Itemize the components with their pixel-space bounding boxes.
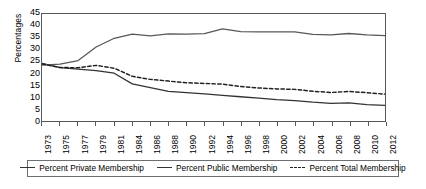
x-tick-mark — [386, 122, 387, 126]
x-tick-mark — [277, 122, 278, 126]
x-tick-label: 1979 — [99, 135, 108, 154]
x-tick-label: 1994 — [226, 135, 235, 154]
x-tick-label: 1986 — [153, 135, 162, 154]
x-tick-mark — [204, 122, 205, 126]
y-tick-label: 30 — [30, 44, 40, 53]
x-tick-label: 1977 — [81, 135, 90, 154]
chart-figure: Percentages 454035302520151050 197319751… — [0, 0, 426, 189]
y-tick-label: 40 — [30, 20, 40, 29]
x-tick-label: 1981 — [117, 135, 126, 154]
legend-item[interactable]: Percent Public Membership — [157, 164, 277, 173]
x-tick-label: 1975 — [62, 135, 71, 154]
x-tick-label: 1992 — [208, 135, 217, 154]
series-line — [42, 63, 385, 93]
x-tick-label: 2000 — [280, 135, 289, 154]
legend-label: Percent Public Membership — [176, 164, 277, 173]
x-tick-label: 1984 — [135, 135, 144, 154]
chart-legend: Percent Private MembershipPercent Public… — [27, 160, 399, 177]
x-tick-mark — [223, 122, 224, 126]
legend-line-icon — [290, 166, 305, 170]
x-tick-mark — [150, 122, 151, 126]
x-axis-tick-labels: 1973197519771979198119841986198819901992… — [41, 126, 386, 156]
x-tick-mark — [95, 122, 96, 126]
x-tick-mark — [241, 122, 242, 126]
x-tick-label: 1996 — [244, 135, 253, 154]
x-tick-label: 2002 — [298, 135, 307, 154]
x-tick-label: 2012 — [389, 135, 398, 154]
x-tick-label: 1990 — [189, 135, 198, 154]
x-tick-label: 2006 — [335, 135, 344, 154]
y-tick-label: 35 — [30, 32, 40, 41]
legend-label: Percent Private Membership — [39, 164, 144, 173]
x-tick-mark — [313, 122, 314, 126]
y-tick-label: 15 — [30, 81, 40, 90]
series-line — [42, 28, 385, 64]
x-tick-mark — [368, 122, 369, 126]
plot-area — [41, 13, 386, 122]
y-tick-label: 45 — [30, 8, 40, 17]
x-tick-label: 2008 — [353, 135, 362, 154]
x-tick-label: 2010 — [371, 135, 380, 154]
x-tick-mark — [114, 122, 115, 126]
y-tick-label: 0 — [35, 117, 40, 126]
x-tick-mark — [59, 122, 60, 126]
legend-item[interactable]: Percent Total Membership — [290, 164, 405, 173]
x-tick-label: 1973 — [44, 135, 53, 154]
x-tick-mark — [132, 122, 133, 126]
legend-label: Percent Total Membership — [309, 164, 405, 173]
x-tick-mark — [332, 122, 333, 126]
x-tick-mark — [41, 122, 42, 126]
x-tick-label: 1988 — [171, 135, 180, 154]
x-tick-label: 1998 — [262, 135, 271, 154]
y-tick-label: 20 — [30, 69, 40, 78]
x-tick-label: 2004 — [317, 135, 326, 154]
x-tick-mark — [168, 122, 169, 126]
x-tick-mark — [186, 122, 187, 126]
y-tick-label: 5 — [35, 105, 40, 114]
x-tick-mark — [77, 122, 78, 126]
legend-line-icon — [20, 166, 35, 170]
series-lines — [42, 14, 385, 121]
y-tick-label: 10 — [30, 93, 40, 102]
legend-item[interactable]: Percent Private Membership — [20, 164, 144, 173]
legend-line-icon — [157, 166, 172, 170]
x-tick-mark — [259, 122, 260, 126]
x-tick-mark — [295, 122, 296, 126]
y-tick-label: 25 — [30, 56, 40, 65]
x-tick-mark — [350, 122, 351, 126]
